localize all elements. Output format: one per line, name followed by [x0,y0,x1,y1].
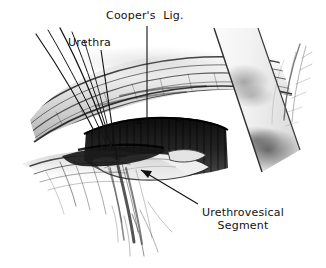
label-urethrovesical-line1: Urethrovesical [202,206,284,219]
label-urethrovesical-segment: UrethrovesicalSegment [191,206,295,232]
label-coopers-ligament: Cooper's Lig. [106,9,184,22]
illustration-figure: Cooper's Lig. Urethra UrethrovesicalSegm… [0,0,326,268]
label-urethra: Urethra [68,36,111,49]
label-urethrovesical-line2: Segment [191,219,295,232]
upper-tissue-shading [64,46,236,78]
